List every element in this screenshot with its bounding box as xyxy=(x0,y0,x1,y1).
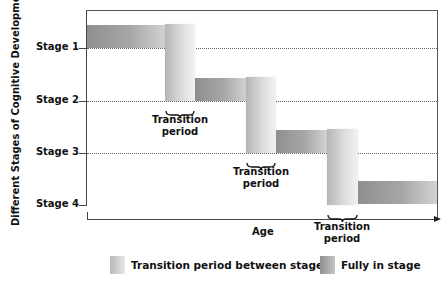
legend-transition-swatch xyxy=(110,256,125,274)
y-tick-stage-1 xyxy=(79,48,86,49)
stage-label-4: Stage 4 xyxy=(36,198,79,209)
legend-full: Fully in stage xyxy=(320,256,421,274)
x-axis-arrow-icon xyxy=(434,216,441,222)
full-stage-bar-3 xyxy=(276,130,327,153)
transition-label-1-line1: Transition xyxy=(150,114,210,126)
transition-bar-3 xyxy=(327,129,358,205)
x-axis xyxy=(87,219,436,220)
gridline-stage-3 xyxy=(87,153,437,154)
brace-icon xyxy=(327,207,358,215)
stage-label-3: Stage 3 xyxy=(36,146,79,157)
full-stage-bar-1 xyxy=(87,25,165,48)
x-axis-origin-tick xyxy=(87,212,88,219)
gridline-stage-1 xyxy=(87,48,437,49)
transition-label-2: Transition period xyxy=(231,166,291,190)
legend-transition: Transition period between stages xyxy=(110,256,329,274)
chart-frame-top xyxy=(86,10,438,11)
transition-label-2-line1: Transition xyxy=(231,166,291,178)
brace-icon xyxy=(165,103,195,111)
y-axis-label: Different Stages of Cognitive Developmen… xyxy=(10,0,21,226)
y-tick-stage-2 xyxy=(79,101,86,102)
full-stage-bar-4 xyxy=(358,181,437,204)
y-tick-stage-3 xyxy=(79,153,86,154)
legend-full-swatch xyxy=(320,256,335,274)
transition-bar-1 xyxy=(165,24,195,101)
transition-bar-2 xyxy=(246,77,276,153)
transition-label-3-line2: period xyxy=(312,233,372,245)
legend-full-label: Fully in stage xyxy=(341,259,421,271)
legend-transition-label: Transition period between stages xyxy=(131,259,329,271)
transition-label-3-line1: Transition xyxy=(312,221,372,233)
transition-label-3: Transition period xyxy=(312,221,372,245)
transition-label-1: Transition period xyxy=(150,114,210,138)
transition-label-2-line2: period xyxy=(231,178,291,190)
x-axis-label: Age xyxy=(252,226,274,237)
stage-label-2: Stage 2 xyxy=(36,94,79,105)
full-stage-bar-2 xyxy=(195,78,246,101)
brace-icon xyxy=(246,155,276,163)
y-tick-stage-4 xyxy=(79,205,86,206)
stage-label-1: Stage 1 xyxy=(36,41,79,52)
chart-frame-right xyxy=(437,10,438,220)
transition-label-1-line2: period xyxy=(150,126,210,138)
